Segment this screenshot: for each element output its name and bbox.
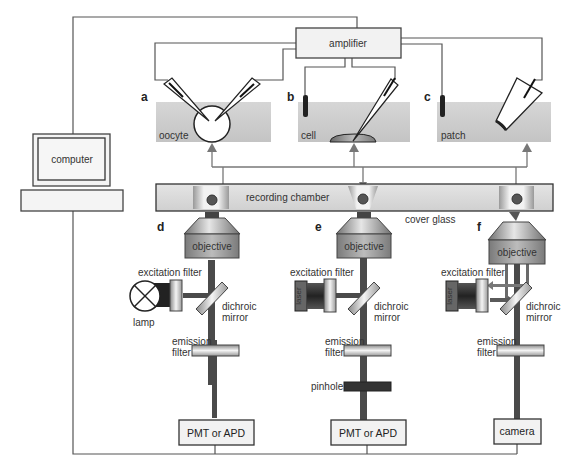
- optics-e-confocal: e objective laser excitation filter dich…: [290, 212, 408, 445]
- dichroic-d-label-1: dichroic: [222, 301, 256, 312]
- emission-d-label-1: emission: [172, 336, 211, 347]
- detector-f-camera: camera: [494, 419, 541, 444]
- computer-base: [21, 190, 123, 211]
- ground-electrode-b-icon: [303, 95, 308, 117]
- objective-d-label: objective: [192, 241, 232, 252]
- pinhole-label: pinhole: [311, 381, 344, 392]
- detector-d: PMT or APD: [179, 420, 254, 445]
- recording-chamber-label: recording chamber: [246, 192, 330, 203]
- laser-e-label: laser: [294, 287, 303, 305]
- lamp-label: lamp: [133, 317, 155, 328]
- lamp-icon: [130, 281, 176, 311]
- laser-f-label: laser: [445, 287, 454, 305]
- optics-f-tirf: f objective laser excitation filter dich…: [441, 212, 560, 444]
- computer-label: computer: [51, 154, 93, 165]
- emission-d-label-2: filter: [172, 347, 192, 358]
- dichroic-e-label-2: mirror: [374, 312, 401, 323]
- detector-e-label: PMT or APD: [339, 427, 398, 439]
- recording-chamber: recording chamber: [156, 184, 553, 211]
- panel-letter-a: a: [141, 90, 148, 104]
- dichroic-d-label-2: mirror: [222, 312, 249, 323]
- optics-d-widefield: d objective excitation filter lamp dichr…: [130, 212, 256, 445]
- camera-label: camera: [499, 425, 534, 437]
- excitation-filter-d: [170, 280, 182, 311]
- computer: computer: [21, 134, 123, 211]
- objective-f-label: objective: [497, 247, 537, 258]
- dichroic-f-label-2: mirror: [526, 312, 553, 323]
- amplifier-label: amplifier: [329, 38, 367, 49]
- emission-e-label-1: emission: [325, 336, 364, 347]
- laser-e-icon: laser: [294, 281, 325, 311]
- detector-e: PMT or APD: [331, 420, 406, 445]
- emission-f-label-2: filter: [477, 347, 497, 358]
- panel-c-patch: c patch: [424, 78, 551, 142]
- sample-e-icon: [358, 194, 368, 204]
- dichroic-e-label-1: dichroic: [374, 301, 408, 312]
- tir-beams-icon: [509, 212, 520, 221]
- signal-arrows: [212, 150, 527, 187]
- panel-a-oocyte: a oocyte: [141, 78, 271, 142]
- patch-label: patch: [441, 130, 465, 141]
- ground-electrode-c-icon: [440, 95, 445, 117]
- excitation-filter-e: [324, 279, 336, 312]
- excitation-filter-d-label: excitation filter: [138, 267, 203, 278]
- panel-letter-f: f: [477, 220, 482, 234]
- pinhole-icon: [344, 382, 391, 391]
- sample-d-icon: [207, 195, 217, 205]
- wiring: [73, 17, 542, 454]
- amplifier-box: amplifier: [296, 28, 401, 58]
- sample-f-icon: [512, 194, 522, 204]
- arrowheads: [207, 143, 532, 189]
- cover-glass-label: cover glass: [405, 214, 456, 225]
- emission-f-label-1: emission: [477, 336, 516, 347]
- cell-label: cell: [301, 130, 316, 141]
- electrophysiology-optics-diagram: amplifier computer a oocyte b cell: [0, 0, 571, 470]
- dichroic-f-label-1: dichroic: [526, 301, 560, 312]
- detector-d-label: PMT or APD: [187, 427, 246, 439]
- panel-letter-d: d: [157, 220, 164, 234]
- laser-f-icon: laser: [445, 281, 476, 311]
- panel-letter-e: e: [315, 220, 322, 234]
- objective-e-label: objective: [344, 241, 384, 252]
- panel-letter-b: b: [287, 90, 294, 104]
- excitation-filter-f-label: excitation filter: [441, 267, 506, 278]
- excitation-filter-e-label: excitation filter: [290, 267, 355, 278]
- excitation-filter-f: [476, 279, 488, 312]
- oocyte-label: oocyte: [159, 130, 189, 141]
- panel-letter-c: c: [424, 90, 431, 104]
- emission-e-label-2: filter: [325, 347, 345, 358]
